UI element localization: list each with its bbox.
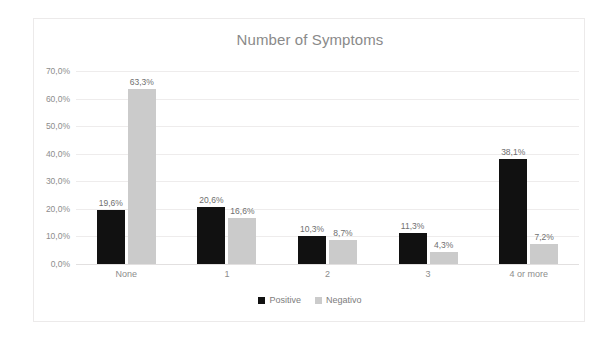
chart-legend: PositiveNegativo (34, 295, 586, 305)
bar-negativo[interactable] (430, 252, 458, 264)
bar-value-label: 10,3% (300, 224, 324, 234)
bar-value-label: 19,6% (99, 198, 123, 208)
bar-positive[interactable] (499, 159, 527, 264)
legend-swatch-icon (315, 297, 322, 304)
x-axis-tick-label: None (116, 269, 138, 279)
y-axis-tick-label: 40,0% (30, 149, 70, 159)
bar-group: 10,3%8,7% (277, 71, 378, 264)
y-axis-tick-label: 10,0% (30, 231, 70, 241)
bar-negativo[interactable] (128, 89, 156, 264)
bar-group: 19,6%63,3% (76, 71, 177, 264)
x-axis-tick-label: 2 (325, 269, 330, 279)
legend-label: Positive (269, 295, 301, 305)
bar-value-label: 11,3% (401, 221, 424, 231)
bar-group: 11,3%4,3% (378, 71, 479, 264)
bar-group: 38,1%7,2% (478, 71, 579, 264)
gridline (76, 264, 579, 265)
y-axis-tick-label: 20,0% (30, 204, 70, 214)
bar-positive[interactable] (298, 236, 326, 264)
plot-area: 19,6%63,3%20,6%16,6%10,3%8,7%11,3%4,3%38… (76, 71, 579, 264)
x-axis-tick-label: 3 (426, 269, 431, 279)
legend-item-negativo[interactable]: Negativo (315, 295, 362, 305)
bar-value-label: 16,6% (230, 206, 254, 216)
bar-negativo[interactable] (329, 240, 357, 264)
bar-value-label: 7,2% (535, 232, 554, 242)
bar-value-label: 4,3% (434, 240, 453, 250)
y-axis-tick-label: 0,0% (30, 259, 70, 269)
bar-value-label: 63,3% (130, 77, 154, 87)
bar-value-label: 8,7% (333, 228, 352, 238)
chart-title: Number of Symptoms (34, 31, 586, 48)
bar-positive[interactable] (399, 233, 427, 264)
bar-value-label: 38,1% (501, 147, 525, 157)
chart-container: Number of Symptoms 0,0%10,0%20,0%30,0%40… (33, 18, 585, 322)
y-axis-tick-label: 70,0% (30, 66, 70, 76)
legend-swatch-icon (258, 297, 265, 304)
legend-label: Negativo (326, 295, 362, 305)
bar-group: 20,6%16,6% (177, 71, 278, 264)
bar-value-label: 20,6% (199, 195, 223, 205)
x-axis-tick-label: 4 or more (509, 269, 548, 279)
y-axis-tick-label: 50,0% (30, 121, 70, 131)
y-axis: 0,0%10,0%20,0%30,0%40,0%50,0%60,0%70,0% (28, 71, 70, 264)
legend-item-positive[interactable]: Positive (258, 295, 301, 305)
y-axis-tick-label: 30,0% (30, 176, 70, 186)
bar-positive[interactable] (197, 207, 225, 264)
bar-positive[interactable] (97, 210, 125, 264)
x-axis-tick-label: 1 (224, 269, 229, 279)
bar-negativo[interactable] (228, 218, 256, 264)
y-axis-tick-label: 60,0% (30, 94, 70, 104)
x-axis: None1234 or more (76, 269, 579, 289)
bar-negativo[interactable] (530, 244, 558, 264)
